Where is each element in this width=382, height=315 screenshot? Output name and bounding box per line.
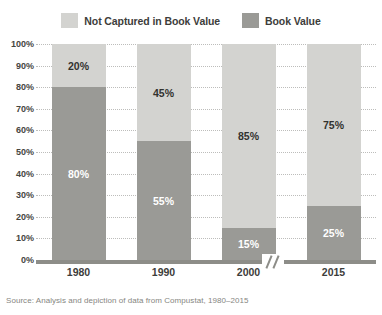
x-axis-line	[36, 260, 376, 264]
x-axis-tick-label-2000: 2000	[206, 266, 291, 286]
stacked-bar-2000[interactable]: 85%15%	[222, 44, 276, 260]
source-note: Source: Analysis and depiction of data f…	[6, 296, 248, 305]
y-axis-tick-label: 50%	[16, 147, 34, 157]
bar-slot-1980: 20%80%	[36, 44, 121, 260]
segment-not-captured-1990[interactable]: 45%	[137, 44, 191, 141]
bar-slot-2015: 75%25%	[291, 44, 376, 260]
y-axis-tick-label: 100%	[11, 39, 34, 49]
plot-area: 20%80%45%55%85%15%75%25%	[36, 44, 376, 260]
segment-label-book-value-1990: 55%	[153, 195, 174, 207]
bar-group: 20%80%45%55%85%15%75%25%	[36, 44, 376, 260]
stacked-bar-1990[interactable]: 45%55%	[137, 44, 191, 260]
segment-book-value-2015[interactable]: 25%	[307, 206, 361, 260]
segment-label-book-value-2000: 15%	[238, 238, 259, 250]
stacked-bar-chart: 100%90%80%70%60%50%40%30%20%10%0% 20%80%…	[0, 38, 382, 286]
segment-label-not-captured-1990: 45%	[153, 87, 174, 99]
y-axis-tick-label: 20%	[16, 212, 34, 222]
segment-label-book-value-2015: 25%	[323, 227, 344, 239]
legend-label-not-captured: Not Captured in Book Value	[84, 15, 220, 27]
segment-label-book-value-1980: 80%	[68, 168, 89, 180]
y-axis-tick-label: 60%	[16, 125, 34, 135]
bar-slot-1990: 45%55%	[121, 44, 206, 260]
segment-not-captured-2000[interactable]: 85%	[222, 44, 276, 228]
legend-item-not-captured: Not Captured in Book Value	[61, 13, 220, 28]
legend-swatch-book-value	[242, 13, 259, 28]
y-axis-tick-label: 70%	[16, 104, 34, 114]
segment-book-value-1990[interactable]: 55%	[137, 141, 191, 260]
segment-not-captured-1980[interactable]: 20%	[52, 44, 106, 87]
chart-legend: Not Captured in Book Value Book Value	[0, 13, 382, 28]
y-axis-tick-label: 80%	[16, 82, 34, 92]
stacked-bar-2015[interactable]: 75%25%	[307, 44, 361, 260]
legend-item-book-value: Book Value	[242, 13, 321, 28]
y-axis-labels: 100%90%80%70%60%50%40%30%20%10%0%	[0, 44, 34, 260]
segment-label-not-captured-2015: 75%	[323, 119, 344, 131]
segment-label-not-captured-1980: 20%	[68, 60, 89, 72]
x-axis-tick-label-1980: 1980	[36, 266, 121, 286]
y-axis-tick-label: 0%	[21, 255, 34, 265]
bar-slot-2000: 85%15%	[206, 44, 291, 260]
x-axis-tick-label-2015: 2015	[291, 266, 376, 286]
y-axis-tick-label: 40%	[16, 169, 34, 179]
y-axis-tick-label: 10%	[16, 233, 34, 243]
segment-not-captured-2015[interactable]: 75%	[307, 44, 361, 206]
stacked-bar-1980[interactable]: 20%80%	[52, 44, 106, 260]
x-axis-tick-label-1990: 1990	[121, 266, 206, 286]
y-axis-tick-label: 30%	[16, 190, 34, 200]
legend-label-book-value: Book Value	[265, 15, 321, 27]
segment-label-not-captured-2000: 85%	[238, 130, 259, 142]
segment-book-value-1980[interactable]: 80%	[52, 87, 106, 260]
x-axis-labels: 1980199020002015	[36, 266, 376, 286]
legend-swatch-not-captured	[61, 13, 78, 28]
y-axis-tick-label: 90%	[16, 61, 34, 71]
